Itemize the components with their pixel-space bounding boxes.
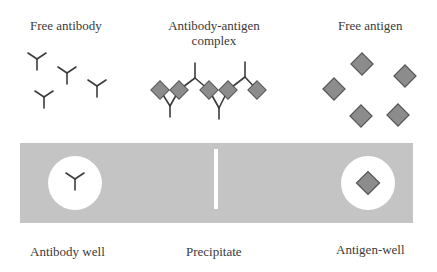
antigen-icon <box>323 78 345 100</box>
label-free-antigen: Free antigen <box>338 18 403 33</box>
antigen-icon <box>350 105 372 127</box>
free-antibody-group <box>28 53 106 108</box>
free-antigen-group <box>323 53 416 127</box>
label-antibody-well: Antibody well <box>30 244 105 259</box>
antigen-icon <box>351 53 373 75</box>
label-complex: Antibody-antigen complex <box>166 18 262 48</box>
antigen-icon <box>170 81 188 99</box>
antibody-antigen-complex <box>151 62 266 119</box>
antigen-icon <box>394 65 416 87</box>
label-free-antibody: Free antibody <box>30 18 102 33</box>
antibody-icon <box>35 91 53 108</box>
antigen-icon <box>219 81 237 99</box>
antigen-icon <box>387 104 409 126</box>
label-precipitate: Precipitate <box>186 244 242 259</box>
label-complex-line2: complex <box>166 33 262 48</box>
antigen-icon <box>151 81 169 99</box>
antibody-icon <box>58 67 76 84</box>
label-complex-line1: Antibody-antigen <box>166 18 262 33</box>
antibody-icon <box>28 53 46 70</box>
antibody-icon <box>88 80 106 97</box>
label-antigen-well: Antigen-well <box>336 242 405 257</box>
precipitate-line <box>214 149 218 209</box>
complex-antigens <box>151 81 266 99</box>
